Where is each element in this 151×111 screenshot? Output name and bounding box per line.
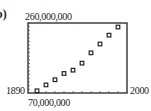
data-point bbox=[71, 68, 75, 72]
data-point bbox=[35, 89, 39, 93]
data-point bbox=[62, 72, 66, 76]
data-point bbox=[107, 33, 111, 37]
data-points bbox=[35, 25, 120, 92]
scatter-plot bbox=[0, 0, 151, 111]
data-point bbox=[89, 51, 93, 55]
data-point bbox=[98, 42, 102, 46]
data-point bbox=[44, 83, 48, 87]
plot-frame bbox=[28, 23, 127, 93]
data-point bbox=[80, 61, 84, 65]
data-point bbox=[53, 78, 57, 82]
data-point bbox=[116, 25, 120, 29]
